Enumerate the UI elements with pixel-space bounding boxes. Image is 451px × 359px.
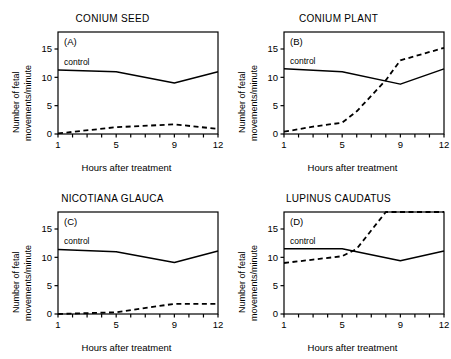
series-control-line xyxy=(284,69,444,84)
panel-a-title: CONIUM SEED xyxy=(0,13,225,24)
panel-c-title: NICOTIANA GLAUCA xyxy=(0,193,225,204)
plot-frame xyxy=(284,212,444,314)
panel-b-plot: 05101515912(B)control xyxy=(258,24,451,152)
panel-b-x-axis-title: Hours after treatment xyxy=(240,162,451,173)
x-tick-label: 5 xyxy=(340,139,345,150)
series-label-control: control xyxy=(64,236,90,246)
y-tick-label: 15 xyxy=(41,223,52,234)
series-label-control: control xyxy=(290,236,316,246)
panel-a: CONIUM SEED Number of fetal movements/mi… xyxy=(0,0,225,179)
panel-d-plot: 05101515912(D)control xyxy=(258,204,451,332)
panel-a-x-axis-title: Hours after treatment xyxy=(14,162,239,173)
y-tick-label: 15 xyxy=(267,43,278,54)
x-tick-label: 9 xyxy=(172,319,177,330)
x-tick-label: 1 xyxy=(281,139,286,150)
x-tick-label: 9 xyxy=(398,139,403,150)
y-tick-label: 15 xyxy=(41,43,52,54)
panel-d: LUPINUS CAUDATUS Number of fetal movemen… xyxy=(226,180,451,359)
panel-b-y-axis-title: Number of fetal movements/minute xyxy=(226,0,256,140)
x-tick-label: 5 xyxy=(114,319,119,330)
x-tick-label: 9 xyxy=(172,139,177,150)
panel-d-title: LUPINUS CAUDATUS xyxy=(226,193,451,204)
x-tick-label: 5 xyxy=(340,319,345,330)
panel-letter: (D) xyxy=(290,216,303,227)
x-tick-label: 5 xyxy=(114,139,119,150)
series-treated-line xyxy=(58,304,218,314)
panel-c-y-axis-title: Number of fetal movements/minute xyxy=(0,180,30,320)
series-control-line xyxy=(58,70,218,83)
y-tick-label: 10 xyxy=(267,72,278,83)
y-tick-label: 5 xyxy=(273,100,278,111)
y-axis-title-line1: Number of fetal xyxy=(11,71,21,133)
y-axis-title-line1: Number of fetal xyxy=(237,71,247,133)
plot-frame xyxy=(58,32,218,134)
y-tick-label: 15 xyxy=(267,223,278,234)
y-tick-label: 10 xyxy=(41,72,52,83)
panel-a-y-axis-title: Number of fetal movements/minute xyxy=(0,0,30,140)
x-tick-label: 12 xyxy=(439,139,450,150)
x-tick-label: 12 xyxy=(213,139,224,150)
plot-frame xyxy=(58,212,218,314)
y-tick-label: 5 xyxy=(47,100,52,111)
series-label-control: control xyxy=(64,57,90,67)
panel-b: CONIUM PLANT Number of fetal movements/m… xyxy=(226,0,451,179)
y-tick-label: 5 xyxy=(47,280,52,291)
x-tick-label: 1 xyxy=(281,319,286,330)
panel-letter: (A) xyxy=(64,36,77,47)
series-control-line xyxy=(284,249,444,261)
panel-letter: (B) xyxy=(290,36,303,47)
y-tick-label: 10 xyxy=(267,252,278,263)
x-tick-label: 1 xyxy=(55,319,60,330)
panel-d-y-axis-title: Number of fetal movements/minute xyxy=(226,180,256,320)
panel-letter: (C) xyxy=(64,216,77,227)
plot-frame xyxy=(284,32,444,134)
x-tick-label: 12 xyxy=(213,319,224,330)
y-axis-title-line1: Number of fetal xyxy=(237,251,247,313)
figure-container: CONIUM SEED Number of fetal movements/mi… xyxy=(0,0,451,359)
y-tick-label: 0 xyxy=(273,128,278,139)
y-tick-label: 5 xyxy=(273,280,278,291)
x-tick-label: 12 xyxy=(439,319,450,330)
panel-a-plot: 05101515912(A)control xyxy=(32,24,225,152)
panel-c-plot: 05101515912(C)control xyxy=(32,204,225,332)
series-treated-line xyxy=(58,124,218,133)
panel-c: NICOTIANA GLAUCA Number of fetal movemen… xyxy=(0,180,225,359)
panel-c-x-axis-title: Hours after treatment xyxy=(14,342,239,353)
series-control-line xyxy=(58,249,218,262)
y-tick-label: 10 xyxy=(41,252,52,263)
series-label-control: control xyxy=(290,56,316,66)
x-tick-label: 9 xyxy=(398,319,403,330)
panel-b-title: CONIUM PLANT xyxy=(226,13,451,24)
x-tick-label: 1 xyxy=(55,139,60,150)
y-tick-label: 0 xyxy=(47,128,52,139)
panel-d-x-axis-title: Hours after treatment xyxy=(240,342,451,353)
y-tick-label: 0 xyxy=(273,308,278,319)
y-axis-title-line1: Number of fetal xyxy=(11,251,21,313)
y-tick-label: 0 xyxy=(47,308,52,319)
